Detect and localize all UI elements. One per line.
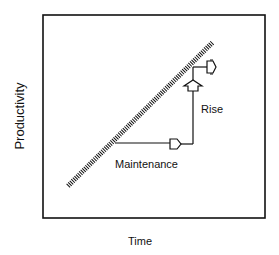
diagram: Maintenance Rise Time Productivity <box>0 0 279 255</box>
plot-frame <box>43 15 265 218</box>
x-axis-label: Time <box>128 235 152 247</box>
maintenance-arrow-icon <box>170 139 181 149</box>
top-arrow-icon <box>207 60 216 74</box>
y-axis-label: Productivity <box>12 82 27 150</box>
rise-label: Rise <box>201 103 223 115</box>
rise-arrow-icon <box>184 80 202 91</box>
maintenance-label: Maintenance <box>115 158 178 170</box>
